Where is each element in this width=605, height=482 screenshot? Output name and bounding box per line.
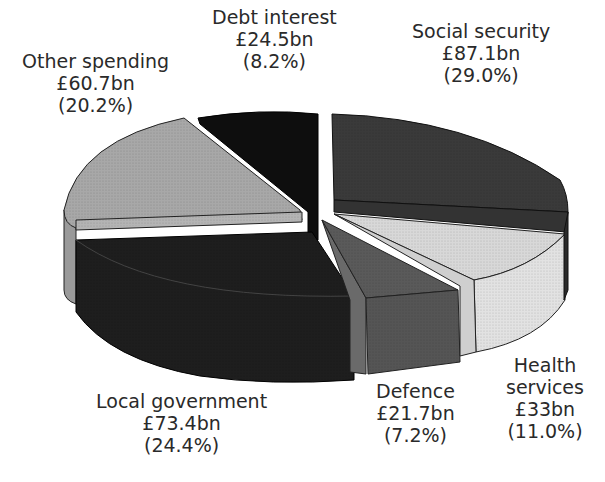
- label-debt-name: Debt interest: [212, 6, 337, 28]
- label-other-value: £60.7bn: [22, 72, 169, 94]
- label-social-name: Social security: [412, 20, 550, 42]
- label-social-percent: (29.0%): [412, 64, 550, 86]
- label-health-services: Health services £33bn (11.0%): [506, 354, 584, 442]
- label-other-spending: Other spending £60.7bn (20.2%): [22, 50, 169, 116]
- label-local-percent: (24.4%): [96, 434, 267, 456]
- label-social-security: Social security £87.1bn (29.0%): [412, 20, 550, 86]
- label-defence-name: Defence: [376, 380, 455, 402]
- pie-chart: Debt interest £24.5bn (8.2%) Social secu…: [0, 0, 605, 482]
- label-debt-interest: Debt interest £24.5bn (8.2%): [212, 6, 337, 72]
- label-defence-value: £21.7bn: [376, 402, 455, 424]
- label-health-value: £33bn: [506, 398, 584, 420]
- label-health-percent: (11.0%): [506, 420, 584, 442]
- label-debt-value: £24.5bn: [212, 28, 337, 50]
- label-health-name-1: Health: [506, 354, 584, 376]
- slice-local-government: [76, 232, 354, 382]
- label-other-percent: (20.2%): [22, 94, 169, 116]
- label-local-value: £73.4bn: [96, 412, 267, 434]
- label-defence-percent: (7.2%): [376, 424, 455, 446]
- label-health-name-2: services: [506, 376, 584, 398]
- label-local-government: Local government £73.4bn (24.4%): [96, 390, 267, 456]
- label-debt-percent: (8.2%): [212, 50, 337, 72]
- label-defence: Defence £21.7bn (7.2%): [376, 380, 455, 446]
- label-local-name: Local government: [96, 390, 267, 412]
- label-social-value: £87.1bn: [412, 42, 550, 64]
- label-other-name: Other spending: [22, 50, 169, 72]
